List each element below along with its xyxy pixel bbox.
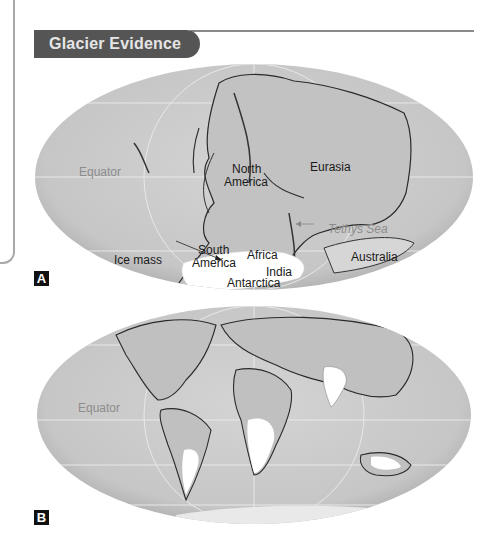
panel-b-tag: B (34, 510, 49, 525)
america-label: America (224, 176, 268, 189)
sidebar-border (0, 0, 15, 264)
header-rule (190, 30, 474, 32)
equator-label-a: Equator (79, 166, 121, 179)
africa-label: Africa (247, 249, 278, 262)
australia-label: Australia (351, 251, 398, 264)
antarctica-label: Antarctica (227, 277, 280, 290)
map-b-present: Equator (36, 305, 473, 525)
eurasia-label: Eurasia (310, 161, 351, 174)
south-america-label: America (192, 257, 236, 270)
panel-a-tag: A (34, 271, 49, 286)
ice-mass-label: Ice mass (114, 254, 162, 267)
section-title: Glacier Evidence (34, 30, 200, 58)
map-b-graphic (36, 305, 473, 525)
map-a-pangaea: Equator North America Eurasia South Amer… (34, 63, 474, 291)
tethys-sea-label: Tethys Sea (328, 223, 388, 236)
equator-label-b: Equator (78, 402, 120, 415)
